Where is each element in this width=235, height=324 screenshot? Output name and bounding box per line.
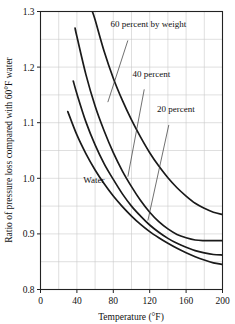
annotation-label-60-percent-by-weight: 60 percent by weight: [111, 19, 187, 29]
x-tick-label: 40: [72, 296, 82, 306]
y-tick-label: 1.2: [23, 63, 35, 73]
x-tick-label: 200: [215, 296, 230, 306]
y-tick-label: 0.9: [23, 229, 35, 239]
y-tick-label: 0.8: [23, 285, 35, 295]
x-tick-label: 160: [179, 296, 194, 306]
pressure-loss-ratio-chart: 60 percent by weight40 percent20 percent…: [0, 0, 235, 324]
y-axis-title: Ratio of pressure loss compared with 60°…: [4, 56, 14, 242]
annotation-label-water: Water: [83, 175, 104, 185]
y-tick-label: 1.3: [23, 7, 35, 17]
x-axis-title: Temperature (°F): [98, 312, 164, 323]
y-tick-label: 1.0: [23, 174, 35, 184]
annotation-label-20-percent: 20 percent: [157, 104, 195, 114]
x-tick-label: 0: [38, 296, 43, 306]
chart-figure: 60 percent by weight40 percent20 percent…: [0, 0, 235, 324]
x-tick-label: 80: [109, 296, 119, 306]
y-tick-label: 1.1: [23, 118, 35, 128]
annotation-label-40-percent: 40 percent: [132, 69, 170, 79]
x-tick-label: 120: [143, 296, 158, 306]
